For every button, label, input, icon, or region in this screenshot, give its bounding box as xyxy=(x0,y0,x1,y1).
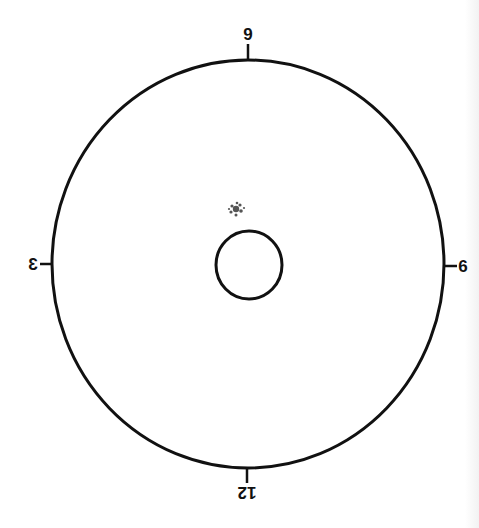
top-label: 9 xyxy=(243,25,252,44)
inner-circle xyxy=(216,231,282,299)
clock-face-diagram: 9 12 3 6 xyxy=(0,0,479,528)
speckle-mark xyxy=(228,202,245,217)
bottom-label: 12 xyxy=(238,483,257,502)
left-label: 3 xyxy=(28,255,37,274)
outer-dial-circle xyxy=(52,60,444,468)
right-label: 6 xyxy=(458,257,467,276)
